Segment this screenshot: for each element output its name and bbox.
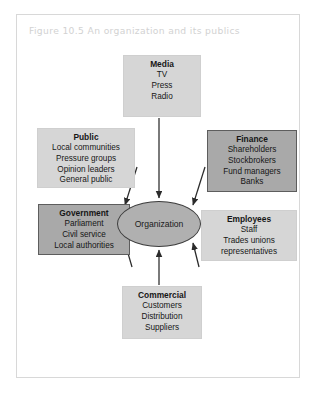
node-employees-item: Staff — [202, 225, 296, 236]
node-finance-item: Banks — [208, 177, 296, 188]
figure-frame: Figure 10.5 An organization and its publ… — [16, 14, 300, 378]
node-finance-title: Finance — [208, 134, 296, 145]
node-public-item: Pressure groups — [38, 154, 134, 165]
node-government-item: Local authorities — [39, 241, 129, 252]
node-employees-item: representatives — [202, 247, 296, 258]
node-commercial-item: Distribution — [123, 312, 201, 323]
node-finance-item: Fund managers — [208, 167, 296, 178]
node-public-item: Local communities — [38, 143, 134, 154]
node-public[interactable]: Public Local communities Pressure groups… — [37, 128, 135, 188]
node-public-item: General public — [38, 175, 134, 186]
node-government-title: Government — [39, 208, 129, 219]
node-media-item: Radio — [124, 92, 200, 103]
diagram-canvas: Media TV Press Radio Public Local commun… — [17, 15, 301, 379]
arrow-employees-to-organization — [193, 243, 199, 267]
node-finance-item: Stockbrokers — [208, 156, 296, 167]
node-employees[interactable]: Employees Staff Trades unions representa… — [201, 210, 297, 261]
node-commercial[interactable]: Commercial Customers Distribution Suppli… — [122, 286, 202, 339]
node-media[interactable]: Media TV Press Radio — [123, 55, 201, 117]
node-employees-title: Employees — [202, 214, 296, 225]
node-organization-label: Organization — [135, 219, 184, 229]
node-commercial-item: Suppliers — [123, 323, 201, 334]
node-finance[interactable]: Finance Shareholders Stockbrokers Fund m… — [207, 130, 297, 192]
node-media-title: Media — [124, 59, 200, 70]
node-public-title: Public — [38, 132, 134, 143]
arrow-finance-to-organization — [193, 167, 205, 205]
node-government-item: Parliament — [39, 219, 129, 230]
node-commercial-item: Customers — [123, 301, 201, 312]
node-government[interactable]: Government Parliament Civil service Loca… — [38, 204, 130, 255]
node-finance-item: Shareholders — [208, 145, 296, 156]
node-media-item: Press — [124, 81, 200, 92]
node-government-item: Civil service — [39, 230, 129, 241]
node-commercial-title: Commercial — [123, 290, 201, 301]
node-media-item: TV — [124, 70, 200, 81]
node-public-item: Opinion leaders — [38, 165, 134, 176]
node-organization-center[interactable]: Organization — [117, 201, 201, 247]
node-employees-item: Trades unions — [202, 236, 296, 247]
